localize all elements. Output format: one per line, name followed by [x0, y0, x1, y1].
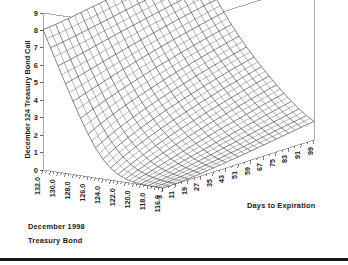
- svg-text:11: 11: [167, 191, 176, 199]
- bottom-rule: [0, 258, 348, 261]
- svg-text:120.0: 120.0: [123, 191, 132, 209]
- annotation-line-2: Treasury Bond: [28, 236, 82, 245]
- svg-text:8: 8: [34, 26, 38, 35]
- svg-text:118.0: 118.0: [138, 193, 147, 211]
- svg-text:4: 4: [34, 96, 39, 105]
- svg-text:126.0: 126.0: [78, 184, 87, 202]
- svg-text:27: 27: [192, 183, 201, 191]
- svg-text:9: 9: [34, 9, 38, 18]
- svg-text:75: 75: [268, 159, 277, 167]
- svg-text:99: 99: [306, 147, 315, 155]
- svg-text:0: 0: [34, 166, 38, 175]
- figure-page: December 124 Treasury Bond Call 01234567…: [0, 0, 348, 265]
- svg-text:128.0: 128.0: [63, 182, 72, 200]
- svg-text:124.0: 124.0: [93, 186, 102, 204]
- svg-text:19: 19: [180, 187, 189, 195]
- svg-text:130.0: 130.0: [48, 179, 57, 197]
- svg-text:59: 59: [243, 167, 252, 175]
- svg-text:35: 35: [205, 179, 214, 187]
- svg-text:83: 83: [280, 155, 289, 163]
- svg-text:5: 5: [34, 78, 38, 87]
- svg-text:122.0: 122.0: [108, 188, 117, 206]
- svg-text:91: 91: [293, 151, 302, 159]
- svg-text:67: 67: [255, 163, 264, 171]
- svg-text:1: 1: [34, 148, 38, 157]
- y-axis-title: Days to Expiration: [247, 201, 316, 210]
- svg-text:43: 43: [217, 175, 226, 183]
- annotation-line-1: December 1998: [28, 222, 85, 231]
- svg-text:2: 2: [34, 131, 38, 140]
- svg-text:3: 3: [155, 195, 164, 199]
- svg-text:3: 3: [34, 113, 38, 122]
- svg-text:132.0: 132.0: [33, 177, 42, 195]
- svg-text:51: 51: [230, 171, 239, 179]
- svg-text:7: 7: [34, 43, 38, 52]
- svg-text:6: 6: [34, 61, 38, 70]
